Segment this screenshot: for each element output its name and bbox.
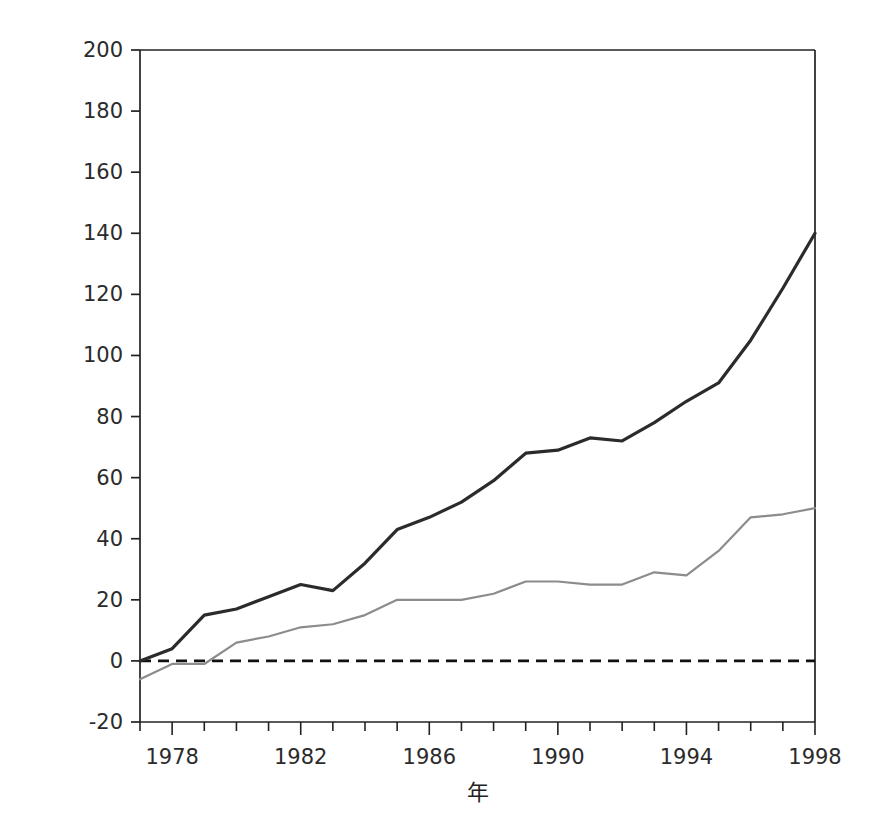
y-tick-label: 0 [110,649,123,673]
y-tick-label: 20 [96,588,123,612]
y-tick-label: 60 [96,466,123,490]
chart-figure: -20020406080100120140160180200 197819821… [0,0,878,832]
y-tick-label: -20 [89,710,123,734]
x-tick-label: 1978 [145,745,198,769]
y-tick-label: 180 [83,99,123,123]
line-chart: -20020406080100120140160180200 197819821… [0,0,878,832]
x-tick-label: 1990 [531,745,584,769]
y-tick-label: 140 [83,221,123,245]
y-tick-label: 160 [83,160,123,184]
y-tick-label: 80 [96,405,123,429]
y-tick-label: 200 [83,38,123,62]
y-tick-label: 40 [96,527,123,551]
y-tick-label: 120 [83,282,123,306]
x-tick-label: 1986 [403,745,456,769]
x-tick-label: 1998 [788,745,841,769]
x-tick-label: 1994 [660,745,713,769]
x-axis-title: 年 [467,780,489,805]
y-tick-label: 100 [83,343,123,367]
x-tick-label: 1982 [274,745,327,769]
